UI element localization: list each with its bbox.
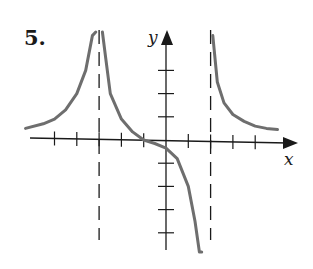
curve-branch: [26, 32, 96, 128]
rational-function-graph: x y: [0, 0, 313, 269]
y-axis-label: y: [147, 27, 158, 47]
x-axis-arrowhead: [283, 137, 298, 149]
curve-branch: [102, 32, 201, 252]
x-axis-label: x: [284, 149, 294, 169]
x-axis: [30, 138, 288, 143]
curve-branch: [213, 36, 278, 130]
y-axis-arrowhead: [161, 30, 173, 45]
axes: [30, 30, 298, 250]
